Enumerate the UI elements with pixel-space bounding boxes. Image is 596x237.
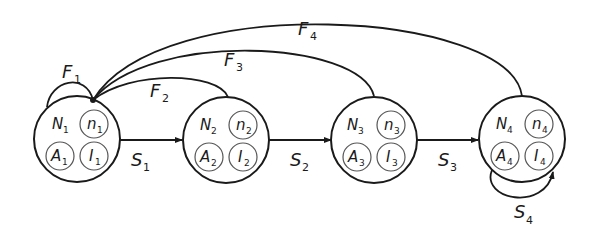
node-1: N 1 n 1 A 1 I 1 [34,96,120,182]
S2-main: S [290,149,301,170]
node-3-N-label: N [347,116,358,134]
node-1-N-label: N [52,115,63,133]
F1-main: F [62,61,73,82]
F2-main: F [150,80,161,101]
node-2: N 2 n 2 A 2 I 2 [183,97,269,183]
node-1-N-sub: 1 [63,125,69,135]
node-3: N 3 n 3 A 3 I 3 [331,97,417,183]
node-4-I-label: I [534,147,539,165]
node-1-A-label: A [50,147,61,165]
edge-label-F3: F 3 [224,49,243,74]
edge-label-F4: F 4 [298,18,317,43]
edge-label-S2: S 2 [290,149,309,174]
node-1-n-label: n [87,115,97,133]
node-1-I-sub: 1 [95,157,101,167]
S2-sub: 2 [302,161,309,174]
node-4-N-label: N [496,115,507,133]
node-2-A-label: A [199,148,210,166]
node-1-n-sub: 1 [97,125,103,135]
edge-label-S3: S 3 [438,149,457,174]
node-3-n-sub: 3 [394,126,400,136]
node-4-N-sub: 4 [507,125,513,135]
F1-sub: 1 [74,73,81,86]
node-3-A-label: A [347,148,358,166]
node-1-I-circle [80,142,108,170]
node-4-I-sub: 4 [540,157,546,167]
edge-S4 [491,170,553,198]
S1-main: S [131,149,142,170]
node-3-n-label: n [384,116,394,134]
S4-main: S [514,201,525,222]
node-3-N-sub: 3 [358,126,364,136]
node-2-I-circle [229,143,257,171]
node-2-n-label: n [236,116,246,134]
F4-main: F [298,18,309,39]
edge-label-F2: F 2 [150,80,169,105]
edge-label-S1: S 1 [131,149,150,174]
F3-sub: 3 [236,61,243,74]
F4-sub: 4 [310,30,317,43]
node-2-A-sub: 2 [211,158,217,168]
node-2-N-label: N [200,116,211,134]
node-3-I-label: I [386,148,391,166]
edge-label-S4: S 4 [514,201,533,227]
node-3-I-circle [377,143,405,171]
node-3-A-sub: 3 [359,158,365,168]
node-4-n-sub: 4 [542,125,548,135]
node-3-I-sub: 3 [392,158,398,168]
node-4-I-circle [525,142,553,170]
node-2-N-sub: 2 [211,126,217,136]
node-2-I-label: I [238,148,243,166]
node-4: N 4 n 4 A 4 I 4 [479,96,565,182]
S1-sub: 1 [143,161,150,174]
node-4-A-label: A [495,147,506,165]
node-1-I-label: I [89,147,94,165]
F3-main: F [224,49,235,70]
node-1-A-sub: 1 [62,157,68,167]
F2-sub: 2 [162,92,169,105]
node-4-A-sub: 4 [507,157,513,167]
node-2-I-sub: 2 [244,158,250,168]
node-2-n-sub: 2 [246,126,252,136]
state-diagram: N 1 n 1 A 1 I 1 N 2 n 2 A 2 I 2 N 3 n 3 … [0,0,596,237]
S3-sub: 3 [450,161,457,174]
node-4-n-label: n [532,115,542,133]
S3-main: S [438,149,449,170]
S4-sub: 4 [526,214,533,227]
